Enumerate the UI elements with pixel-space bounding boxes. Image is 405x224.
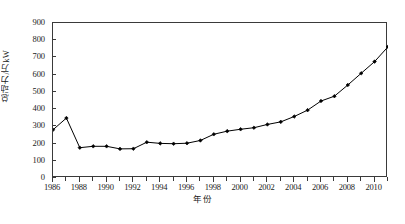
x-axis-tick-label: 1990 bbox=[97, 182, 113, 192]
x-axis-tick-label-group: 1986198819901992199419961998200020022004… bbox=[0, 182, 405, 194]
data-point-marker bbox=[225, 129, 229, 133]
data-point-marker bbox=[239, 127, 243, 131]
y-axis-tick-mark bbox=[52, 39, 56, 40]
x-axis-tick-label: 2002 bbox=[258, 182, 274, 192]
data-point-marker bbox=[199, 139, 203, 143]
y-axis-tick-mark bbox=[52, 91, 56, 92]
x-axis-tick-mark bbox=[360, 177, 361, 181]
x-axis-tick-mark bbox=[65, 177, 66, 181]
y-axis-tick-mark bbox=[52, 125, 56, 126]
y-axis-tick-label: 0 bbox=[41, 173, 45, 182]
data-point-marker bbox=[91, 145, 95, 149]
y-axis-tick-label: 400 bbox=[33, 104, 45, 113]
x-axis-tick-mark bbox=[119, 177, 120, 181]
plot-area bbox=[52, 22, 387, 177]
x-axis-tick-label: 2008 bbox=[339, 182, 355, 192]
y-axis-tick-mark bbox=[52, 143, 56, 144]
data-point-marker bbox=[78, 146, 82, 150]
x-axis-tick-mark bbox=[280, 177, 281, 181]
data-point-marker bbox=[172, 142, 176, 146]
y-axis-tick-mark bbox=[52, 56, 56, 57]
y-axis-tick-label: 500 bbox=[33, 86, 45, 95]
x-axis-tick-mark bbox=[92, 177, 93, 181]
x-axis-tick-label: 1992 bbox=[124, 182, 140, 192]
data-point-marker bbox=[279, 120, 283, 124]
y-axis-tick-label: 200 bbox=[33, 138, 45, 147]
x-axis-tick-mark bbox=[146, 177, 147, 181]
x-axis-tick-label: 2004 bbox=[285, 182, 301, 192]
y-axis-tick-label: 300 bbox=[33, 121, 45, 130]
y-axis-tick-mark bbox=[52, 177, 56, 178]
data-point-marker bbox=[132, 147, 136, 151]
y-axis-tick-mark bbox=[52, 108, 56, 109]
y-axis-tick-label: 600 bbox=[33, 69, 45, 78]
data-point-marker bbox=[105, 145, 109, 149]
x-axis-tick-mark bbox=[333, 177, 334, 181]
x-axis-tick-mark bbox=[387, 177, 388, 181]
x-axis-tick-label: 2000 bbox=[231, 182, 247, 192]
data-point-marker bbox=[212, 132, 216, 136]
x-axis-tick-label: 1988 bbox=[71, 182, 87, 192]
x-axis-tick-mark bbox=[226, 177, 227, 181]
x-axis-tick-mark bbox=[199, 177, 200, 181]
y-axis-tick-label: 900 bbox=[33, 18, 45, 27]
x-axis-tick-label: 1996 bbox=[178, 182, 194, 192]
series-line bbox=[53, 47, 388, 149]
y-axis-title: 总动力/万kW bbox=[1, 50, 15, 102]
x-axis-tick-label: 2006 bbox=[312, 182, 328, 192]
x-axis-title: 年份 bbox=[0, 194, 405, 204]
data-point-marker bbox=[252, 126, 256, 130]
data-point-marker bbox=[292, 115, 296, 119]
x-axis-tick-mark bbox=[253, 177, 254, 181]
data-point-marker bbox=[145, 140, 149, 144]
x-axis-tick-label: 1998 bbox=[205, 182, 221, 192]
y-axis-tick-mark bbox=[52, 74, 56, 75]
data-point-marker bbox=[185, 141, 189, 145]
data-point-marker bbox=[266, 123, 270, 127]
x-axis-tick-mark bbox=[307, 177, 308, 181]
x-axis-tick-label: 1994 bbox=[151, 182, 167, 192]
figure-container: 总动力/万kW 0100200300400500600700800900 198… bbox=[0, 0, 405, 224]
y-axis-tick-mark bbox=[52, 22, 56, 23]
data-point-marker bbox=[118, 147, 122, 151]
y-axis-tick-mark bbox=[52, 160, 56, 161]
y-axis-tick-label: 800 bbox=[33, 35, 45, 44]
y-axis-tick-label: 700 bbox=[33, 52, 45, 61]
data-point-marker bbox=[158, 142, 162, 146]
x-axis-tick-label: 1986 bbox=[44, 182, 60, 192]
x-axis-tick-label: 2010 bbox=[365, 182, 381, 192]
line-series-svg bbox=[53, 23, 388, 178]
y-axis-tick-label: 100 bbox=[33, 155, 45, 164]
x-axis-tick-mark bbox=[173, 177, 174, 181]
